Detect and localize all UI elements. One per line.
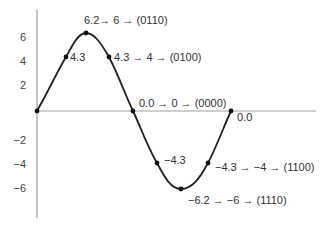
y-tick-neg4: −4 bbox=[13, 158, 26, 170]
y-tick-2: 2 bbox=[20, 79, 26, 91]
label-sample-8: 0.0 bbox=[237, 111, 252, 123]
label-sample-1: 4.3 bbox=[70, 51, 85, 63]
sample-point bbox=[107, 55, 112, 60]
label-sample-7: −4.3 → −4 → (1100) bbox=[215, 161, 314, 173]
label-sample-2: 6.2→ 6 → (0110) bbox=[84, 14, 168, 26]
label-sample-4: 0.0 → 0 → (0000) bbox=[139, 97, 226, 109]
sample-point bbox=[84, 31, 89, 36]
y-tick-4: 4 bbox=[20, 55, 26, 67]
sample-point bbox=[64, 55, 69, 60]
y-tick-neg2: −2 bbox=[13, 134, 26, 146]
label-sample-6: −6.2 → −6 → (1110) bbox=[188, 194, 287, 206]
y-tick-6: 6 bbox=[20, 31, 26, 43]
label-sample-5: −4.3 bbox=[164, 154, 186, 166]
sample-point bbox=[35, 109, 40, 114]
sample-point bbox=[131, 109, 136, 114]
sample-point bbox=[206, 161, 211, 166]
sample-point bbox=[179, 187, 184, 192]
sample-point bbox=[229, 109, 234, 114]
sample-point bbox=[155, 161, 160, 166]
quantization-diagram: 6 4 2 −2 −4 −6 4.3 6.2→ 6 → (0110) 4.3 →… bbox=[0, 0, 333, 229]
label-sample-3: 4.3 → 4 → (0100) bbox=[114, 51, 201, 63]
y-tick-neg6: −6 bbox=[13, 182, 26, 194]
